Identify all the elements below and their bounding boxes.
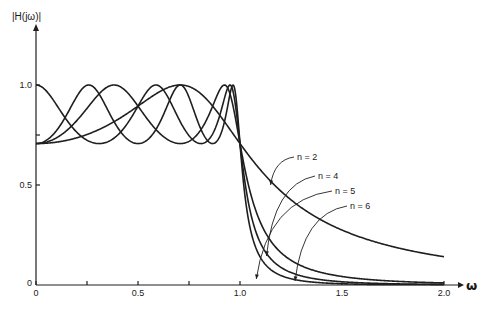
curve-n6: [36, 85, 444, 285]
y-axis-title: |H(jω)|: [12, 11, 41, 22]
x-tick-label: 1.5: [336, 288, 349, 298]
y-tick-label: 0.5: [19, 180, 32, 190]
leader-line: [271, 157, 294, 185]
chebyshev-response-chart: 00.51.01.52.000.51.0 n = 2n = 4n = 5n = …: [0, 0, 489, 316]
series-label: n = 4: [318, 171, 338, 181]
x-tick-label: 0: [33, 288, 38, 298]
y-axis-arrow-icon: [33, 24, 39, 31]
series-label: n = 2: [297, 152, 317, 162]
curve-n4: [36, 85, 444, 283]
curve-n5: [36, 85, 444, 284]
series-label: n = 5: [335, 186, 355, 196]
arrowhead-icon: [255, 274, 259, 279]
curves: [36, 85, 444, 285]
leader-line: [295, 206, 347, 281]
x-tick-label: 1.0: [234, 288, 247, 298]
x-tick-label: 2.0: [438, 288, 451, 298]
y-tick-label: 0: [27, 278, 32, 288]
y-tick-label: 1.0: [19, 80, 32, 90]
x-axis-arrow-icon: [458, 282, 464, 288]
series-label: n = 6: [350, 201, 370, 211]
series-labels: n = 2n = 4n = 5n = 6: [255, 152, 370, 281]
x-axis-title: ω: [466, 278, 477, 293]
x-tick-label: 0.5: [132, 288, 145, 298]
curve-n2: [36, 85, 444, 257]
